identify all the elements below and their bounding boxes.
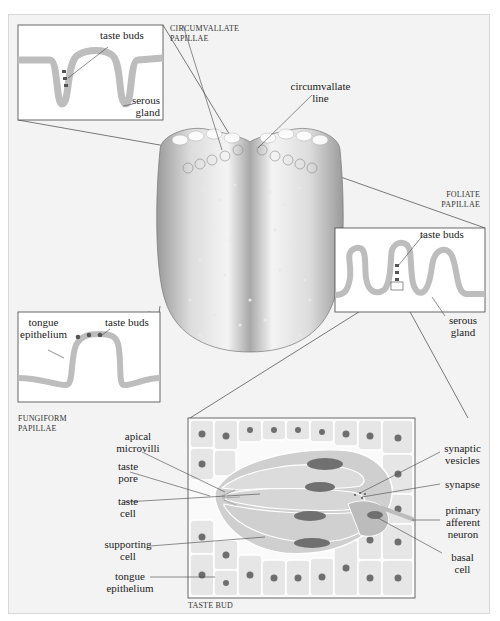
label-line: taste: [108, 495, 148, 507]
label-line: gland: [443, 326, 483, 338]
label-line: primary: [443, 504, 483, 516]
label-tongue-epithelium-fungiform: tongue epithelium: [20, 316, 67, 340]
diagram-canvas: [0, 0, 500, 621]
caption-line: PAPILLAE: [170, 34, 239, 44]
label-line: cell: [108, 507, 148, 519]
label-line: gland: [125, 106, 160, 118]
label-circumvallate-line: circumvallate line: [283, 80, 358, 104]
label-line: tongue: [100, 570, 160, 582]
caption-circumvallate-papillae: CIRCUMVALLATE PAPILLAE: [170, 24, 239, 44]
label-taste-buds-fungiform: taste buds: [105, 316, 149, 328]
caption-line: FOLIATE: [420, 190, 480, 200]
label-line: line: [283, 92, 358, 104]
label-tongue-epithelium-detail: tongue epithelium: [100, 570, 160, 594]
label-synapse: synapse: [440, 478, 485, 490]
label-line: epithelium: [100, 582, 160, 594]
label-serous-gland-foliate: serous gland: [443, 314, 483, 338]
label-line: neuron: [443, 528, 483, 540]
label-line: pore: [108, 472, 148, 484]
label-line: epithelium: [20, 328, 67, 340]
label-supporting-cell: supporting cell: [98, 538, 158, 562]
label-apical-microvilli: apical microvilli: [108, 430, 168, 454]
label-line: taste: [108, 460, 148, 472]
tongue-illustration: [157, 25, 344, 352]
label-line: vesicles: [440, 454, 485, 466]
label-line: serous: [443, 314, 483, 326]
caption-line: PAPILLAE: [18, 424, 67, 434]
label-line: basal: [445, 551, 480, 563]
foliate-inset: [335, 228, 485, 316]
label-basal-cell: basal cell: [445, 551, 480, 575]
label-line: cell: [98, 550, 158, 562]
caption-line: CIRCUMVALLATE: [170, 24, 239, 34]
label-serous-gland-circumvallate: serous gland: [125, 94, 160, 118]
label-line: synaptic: [440, 442, 485, 454]
label-line: circumvallate: [283, 80, 358, 92]
caption-line: PAPILLAE: [420, 200, 480, 210]
label-line: apical: [108, 430, 168, 442]
label-line: microvilli: [108, 442, 168, 454]
caption-fungiform-papillae: FUNGIFORM PAPILLAE: [18, 414, 67, 434]
label-line: supporting: [98, 538, 158, 550]
label-taste-buds-circumvallate: taste buds: [100, 29, 144, 41]
label-line: afferent: [443, 516, 483, 528]
label-line: tongue: [20, 316, 67, 328]
label-line: cell: [445, 563, 480, 575]
caption-foliate-papillae: FOLIATE PAPILLAE: [420, 190, 480, 210]
taste-bud-detail: [125, 418, 442, 598]
caption-line: FUNGIFORM: [18, 414, 67, 424]
label-taste-pore: taste pore: [108, 460, 148, 484]
label-primary-afferent-neuron: primary afferent neuron: [443, 504, 483, 540]
label-taste-cell: taste cell: [108, 495, 148, 519]
caption-taste-bud: TASTE BUD: [188, 601, 233, 611]
label-line: serous: [125, 94, 160, 106]
label-taste-buds-foliate: taste buds: [420, 228, 464, 240]
label-synaptic-vesicles: synaptic vesicles: [440, 442, 485, 466]
